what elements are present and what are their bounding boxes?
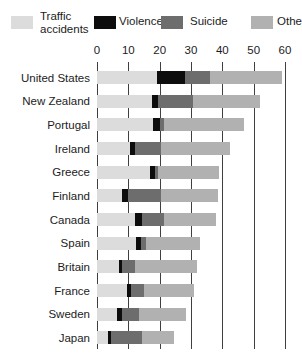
bar-row-britain — [97, 260, 197, 273]
bar-segment-ireland-traffic-accidents — [97, 142, 130, 155]
violence-legend-label: Violence — [119, 15, 163, 28]
bar-segment-ireland-other — [161, 142, 230, 155]
bar-segment-sweden-other — [139, 308, 186, 321]
bar-segment-japan-suicide — [111, 331, 142, 344]
bar-segment-united-states-suicide — [185, 71, 210, 84]
bar-segment-finland-suicide — [128, 189, 161, 202]
x-tick-50: 50 — [239, 44, 269, 56]
country-label-japan: Japan — [0, 331, 90, 345]
bar-segment-france-traffic-accidents — [97, 284, 127, 297]
other-legend-label: Other — [277, 15, 302, 28]
country-label-new-zealand: New Zealand — [0, 94, 90, 108]
bar-segment-canada-suicide — [142, 213, 164, 226]
country-label-britain: Britain — [0, 260, 90, 274]
bar-segment-france-other — [144, 284, 194, 297]
bar-segment-united-states-traffic-accidents — [97, 71, 157, 84]
bar-segment-new-zealand-suicide — [158, 95, 192, 108]
bar-segment-canada-traffic-accidents — [97, 213, 135, 226]
bar-row-france — [97, 284, 194, 297]
x-tick-40: 40 — [207, 44, 237, 56]
bar-row-united-states — [97, 71, 282, 84]
bar-segment-canada-violence — [135, 213, 143, 226]
bar-segment-portugal-other — [164, 118, 244, 131]
country-label-portugal: Portugal — [0, 118, 90, 132]
bar-segment-ireland-suicide — [135, 142, 162, 155]
x-tick-0: 0 — [82, 44, 112, 56]
x-tick-10: 10 — [113, 44, 143, 56]
x-tick-30: 30 — [176, 44, 206, 56]
country-label-france: France — [0, 284, 90, 298]
bar-segment-britain-traffic-accidents — [97, 260, 119, 273]
bar-segment-new-zealand-traffic-accidents — [97, 95, 152, 108]
bar-row-portugal — [97, 118, 244, 131]
country-label-ireland: Ireland — [0, 142, 90, 156]
bar-row-greece — [97, 166, 219, 179]
bar-segment-greece-traffic-accidents — [97, 166, 150, 179]
bar-segment-sweden-traffic-accidents — [97, 308, 117, 321]
bar-row-finland — [97, 189, 218, 202]
bar-segment-spain-other — [146, 237, 201, 250]
bar-segment-new-zealand-other — [193, 95, 260, 108]
traffic-accidents-legend-label: Traffic accidents — [40, 10, 102, 36]
bar-segment-spain-traffic-accidents — [97, 237, 136, 250]
country-label-spain: Spain — [0, 236, 90, 250]
bar-segment-britain-other — [135, 260, 198, 273]
country-label-finland: Finland — [0, 189, 90, 203]
bar-segment-finland-traffic-accidents — [97, 189, 122, 202]
country-label-sweden: Sweden — [0, 307, 90, 321]
bar-row-sweden — [97, 308, 186, 321]
bar-row-ireland — [97, 142, 230, 155]
country-label-canada: Canada — [0, 213, 90, 227]
suicide-legend-label: Suicide — [190, 15, 228, 28]
bar-segment-greece-other — [158, 166, 219, 179]
suicide-legend-swatch — [161, 16, 183, 29]
bar-segment-sweden-suicide — [122, 308, 139, 321]
other-legend-swatch — [251, 16, 273, 29]
bar-segment-united-states-violence — [157, 71, 185, 84]
plot-area — [97, 62, 285, 349]
bar-segment-united-states-other — [210, 71, 282, 84]
country-label-united-states: United States — [0, 71, 90, 85]
bar-row-new-zealand — [97, 95, 260, 108]
gridline-60 — [285, 62, 286, 349]
bar-row-spain — [97, 237, 200, 250]
country-label-greece: Greece — [0, 165, 90, 179]
bar-row-japan — [97, 331, 174, 344]
bar-segment-portugal-traffic-accidents — [97, 118, 153, 131]
bar-segment-france-suicide — [131, 284, 144, 297]
violence-legend-swatch — [94, 16, 116, 29]
stacked-bar-chart: Traffic accidentsViolenceSuicideOther 01… — [0, 0, 302, 363]
bar-segment-japan-other — [142, 331, 173, 344]
traffic-accidents-legend-swatch — [11, 16, 33, 29]
x-tick-60: 60 — [270, 44, 300, 56]
bar-segment-japan-traffic-accidents — [97, 331, 108, 344]
bar-segment-finland-other — [161, 189, 217, 202]
bar-segment-britain-suicide — [122, 260, 135, 273]
x-tick-20: 20 — [145, 44, 175, 56]
bar-segment-canada-other — [164, 213, 216, 226]
bar-row-canada — [97, 213, 216, 226]
